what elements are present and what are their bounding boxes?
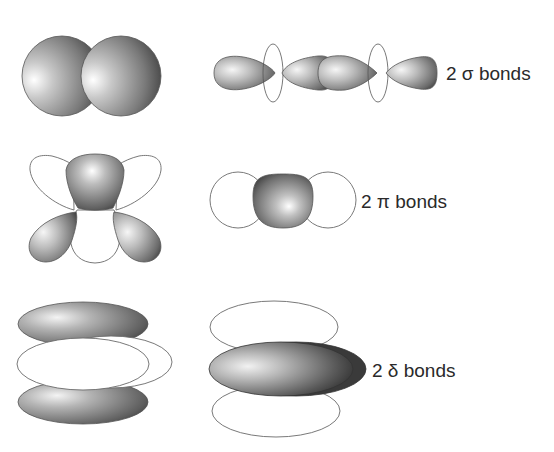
pi-right-overlap (210, 172, 356, 228)
pi-label: 2 π bonds (361, 191, 447, 212)
sigma-symbol: σ (462, 63, 474, 84)
sigma-left-spheres (22, 36, 161, 116)
pi-shaded-center (253, 174, 313, 228)
sigma-label: 2 σ bonds (446, 63, 531, 84)
lobe-4 (386, 57, 437, 90)
delta-label: 2 δ bonds (372, 360, 456, 381)
sigma-word: bonds (479, 63, 531, 84)
delta-word: bonds (404, 360, 456, 381)
delta-count: 2 (372, 360, 383, 381)
sigma-count: 2 (446, 63, 457, 84)
delta-symbol: δ (388, 360, 399, 381)
pi-word: bonds (395, 191, 447, 212)
delta-middle-open (17, 338, 149, 390)
sigma-right-lobes (214, 44, 437, 102)
lobe-lower-left-shaded (29, 212, 77, 262)
lobe-lower-right-shaded (113, 212, 161, 262)
pi-left-cloverleaf (29, 154, 161, 263)
delta-right-stack (209, 301, 366, 437)
lobe-bottom-open (70, 210, 120, 263)
sphere-right (81, 36, 161, 116)
pi-symbol: π (377, 191, 390, 212)
lobe-1 (214, 56, 275, 89)
delta-left-stack (17, 302, 172, 424)
lobe-top-shaded (66, 154, 124, 210)
pi-count: 2 (361, 191, 372, 212)
bonding-diagram: 2 σ bonds 2 π bonds (0, 0, 554, 452)
delta-right-front-shaded (209, 342, 353, 396)
